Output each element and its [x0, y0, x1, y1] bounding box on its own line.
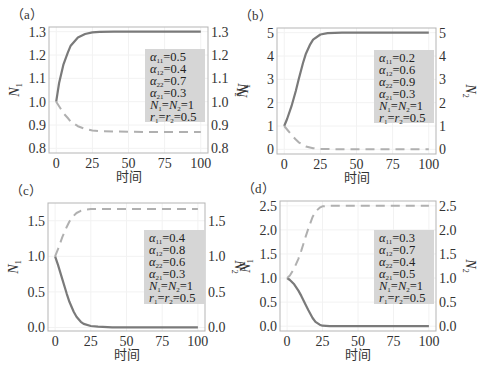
x-tick: 0	[281, 157, 288, 172]
legend-rate-row: r1=r2=0.5	[149, 292, 201, 304]
legend-rate-row: r1=r2=0.5	[379, 112, 430, 124]
x-tick: 25	[313, 157, 327, 172]
y-tick-left: 0.0	[28, 320, 46, 335]
y-axis-label-right: N2	[461, 258, 477, 272]
y-tick-right: 1.0	[439, 271, 457, 286]
legend-rate-row: r1=r2=0.5	[150, 111, 201, 123]
x-axis-label: 时间	[345, 347, 371, 362]
x-tick: 75	[386, 334, 400, 349]
x-tick: 100	[190, 156, 211, 171]
y-tick-left: 1.5	[260, 247, 278, 262]
y-tick-right: 0.9	[211, 118, 229, 133]
y-tick-left: 3	[267, 72, 274, 87]
y-tick-right: 1	[439, 119, 446, 134]
y-tick-left: 0.8	[29, 141, 47, 156]
y-tick-right: 2.0	[439, 223, 457, 238]
y-tick-left: 1.2	[29, 48, 47, 63]
x-tick: 100	[418, 334, 439, 349]
panel-label: （c）	[10, 183, 42, 198]
y-tick-right: 1.3	[211, 25, 229, 40]
panel-c: 0.00.00.50.51.01.01.51.50255075100时间（c）N…	[6, 183, 247, 362]
x-tick: 75	[386, 157, 400, 172]
x-tick: 25	[316, 334, 330, 349]
y-tick-left: 1.0	[260, 271, 278, 286]
y-tick-right: 2.5	[439, 199, 457, 214]
y-tick-right: 0.8	[211, 141, 229, 156]
y-tick-right: 4	[439, 49, 446, 64]
y-tick-right: 0.0	[208, 320, 226, 335]
y-axis-label-right: N2	[461, 83, 477, 97]
y-tick-right: 0	[439, 142, 446, 157]
y-tick-left: 1	[267, 119, 274, 134]
y-tick-right: 1.5	[208, 214, 226, 229]
y-axis-label-left: N1	[6, 260, 23, 274]
panel-b: 0011223344550255075100时间（b）N1N2	[235, 8, 477, 185]
y-tick-left: 0.5	[260, 295, 278, 310]
legend-rate-row: r1=r2=0.5	[379, 292, 430, 304]
panel-d: 0.00.00.50.51.01.01.51.52.02.02.52.50255…	[238, 181, 477, 362]
parameter-legend: α11=0.2α12=0.6α22=0.9α21=0.3N1=N2=1r1=r2…	[374, 50, 434, 123]
x-tick: 75	[158, 156, 172, 171]
parameter-legend: α11=0.3α12=0.7α22=0.4α21=0.5N1=N2=1r1=r2…	[374, 230, 434, 304]
panel-label: （a）	[11, 7, 43, 22]
y-tick-right: 1.1	[211, 71, 229, 86]
y-tick-left: 5	[267, 26, 274, 41]
y-tick-left: 1.5	[28, 214, 46, 229]
y-tick-right: 1.5	[439, 247, 457, 262]
panel-label: （d）	[242, 181, 275, 196]
y-tick-right: 0.0	[439, 319, 457, 334]
y-tick-right: 0.5	[208, 285, 226, 300]
y-tick-right: 1.2	[211, 48, 229, 63]
y-tick-left: 2.0	[260, 223, 278, 238]
y-tick-left: 1.0	[29, 95, 47, 110]
panel-label: （b）	[239, 8, 272, 23]
y-tick-right: 3	[439, 72, 446, 87]
parameter-legend: α11=0.5α12=0.4α22=0.7α21=0.3N1=N2=1r1=r2…	[145, 49, 205, 122]
panel-a: 0.80.80.90.91.01.01.11.11.21.21.31.30255…	[7, 7, 250, 184]
y-tick-left: 2	[267, 96, 274, 111]
x-tick: 0	[53, 156, 60, 171]
y-tick-left: 1.3	[29, 25, 47, 40]
y-tick-left: 0.9	[29, 118, 47, 133]
y-tick-left: 1.0	[28, 249, 46, 264]
y-tick-right: 2	[439, 96, 446, 111]
x-tick: 100	[418, 157, 439, 172]
x-axis-label: 时间	[114, 347, 140, 362]
y-tick-right: 1.0	[211, 95, 229, 110]
y-axis-label-left: N1	[7, 83, 24, 97]
y-tick-right: 0.5	[439, 295, 457, 310]
x-tick: 75	[155, 334, 169, 349]
x-tick: 25	[85, 156, 99, 171]
y-tick-right: 5	[439, 26, 446, 41]
y-tick-left: 0	[267, 142, 274, 157]
y-tick-left: 2.5	[260, 199, 278, 214]
y-tick-left: 0.5	[28, 285, 46, 300]
y-tick-right: 1.0	[208, 249, 226, 264]
x-tick: 100	[187, 334, 208, 349]
y-tick-left: 4	[267, 49, 274, 64]
parameter-legend: α11=0.4α12=0.8α22=0.6α21=0.3N1=N2=1r1=r2…	[144, 230, 205, 304]
x-tick: 0	[284, 334, 291, 349]
y-tick-left: 0.0	[260, 319, 278, 334]
y-tick-left: 1.1	[29, 71, 47, 86]
x-tick: 0	[52, 334, 59, 349]
x-axis-label: 时间	[116, 169, 142, 184]
x-tick: 25	[84, 334, 98, 349]
x-axis-label: 时间	[344, 170, 370, 185]
